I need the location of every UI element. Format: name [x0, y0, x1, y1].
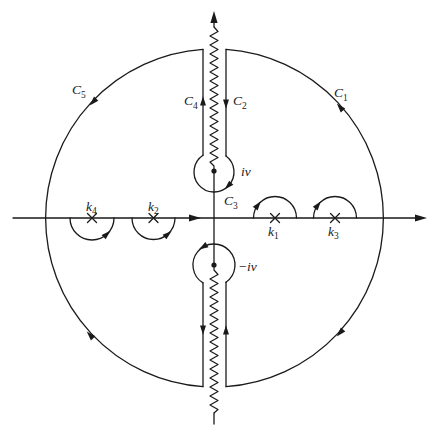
lower-keyhole	[193, 242, 235, 387]
label-iv: iv	[241, 164, 251, 179]
c5-arrow-icon	[88, 97, 99, 108]
lower-branch-cut	[210, 265, 218, 413]
label-k2: k2	[148, 199, 159, 216]
label-c3: C3	[224, 193, 238, 211]
lower-left-arc-arrow-icon	[85, 329, 96, 340]
label-minus-iv: −iv	[238, 259, 257, 274]
labels: C1 C2 C3 C4 C5 k4 k2 k1 k3 iv −iv	[72, 82, 348, 274]
axes	[13, 11, 427, 424]
upper-branch-cut	[210, 27, 218, 171]
upper-keyhole	[194, 49, 234, 192]
label-k1: k1	[268, 224, 279, 241]
branch-point-iv-dot	[211, 168, 216, 173]
c2-arrow-icon	[223, 99, 229, 108]
real-axis-mid-arrow-icon	[189, 214, 201, 221]
label-c4: C4	[184, 93, 198, 111]
k2-indent	[132, 218, 175, 240]
k1-indent	[254, 197, 297, 219]
lower-right-arc-arrow-icon	[335, 328, 346, 339]
k4-indent	[70, 218, 114, 240]
label-k3: k3	[328, 224, 339, 241]
label-k4: k4	[86, 199, 97, 216]
c1-arrow-icon	[335, 101, 346, 112]
imag-axis-arrow-icon	[210, 11, 217, 23]
contour-diagram: C1 C2 C3 C4 C5 k4 k2 k1 k3 iv −iv	[0, 0, 436, 436]
label-c5: C5	[72, 82, 86, 100]
branch-point-minus-iv-dot	[211, 262, 216, 267]
lower-left-line-arrow-icon	[200, 325, 206, 334]
c4-arrow-icon	[200, 96, 206, 105]
k3-indent	[314, 197, 357, 219]
real-axis-arrow-icon	[415, 214, 427, 221]
label-c2: C2	[233, 93, 247, 111]
lower-right-line-arrow-icon	[223, 325, 229, 334]
